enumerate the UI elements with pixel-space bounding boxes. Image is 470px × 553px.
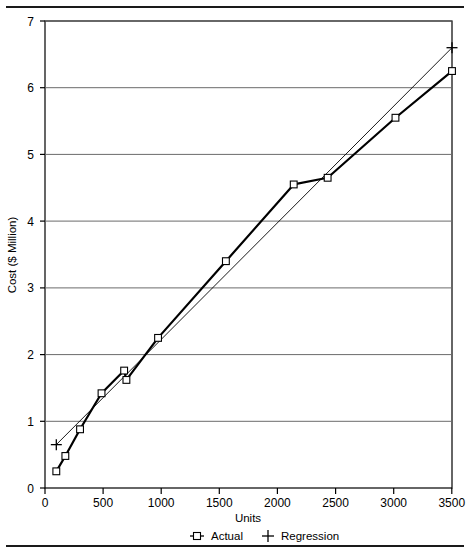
x-tick-label: 3500	[438, 496, 465, 510]
x-tick-label: 500	[93, 496, 113, 510]
y-tick-label: 2	[27, 348, 34, 362]
data-point-marker-square	[98, 390, 105, 397]
data-point-marker-square	[62, 453, 69, 460]
plot-frame	[45, 21, 452, 488]
y-tick-label: 3	[27, 281, 34, 295]
data-point-marker-square	[324, 174, 331, 181]
x-axis-title: Units	[235, 512, 261, 524]
data-point-marker-square	[121, 367, 128, 374]
x-tick-label: 1500	[206, 496, 233, 510]
data-point-marker-square	[290, 181, 297, 188]
data-point-marker-square	[53, 468, 60, 475]
x-axis-tick-labels: 0 500 1000 1500 2000 2500 3000 3500	[42, 496, 466, 510]
y-tick-label: 5	[27, 148, 34, 162]
y-axis-title: Cost ($ Million)	[6, 216, 18, 293]
legend-plus-marker-icon	[262, 530, 274, 542]
y-tick-label: 6	[27, 81, 34, 95]
data-point-marker-square	[77, 426, 84, 433]
y-tick-label: 7	[27, 15, 34, 29]
data-point-marker-square	[123, 377, 130, 384]
y-tick-label: 1	[27, 415, 34, 429]
legend-item-regression: Regression	[262, 530, 339, 542]
y-tick-label: 0	[27, 482, 34, 496]
x-tick-label: 1000	[148, 496, 175, 510]
legend-label-regression: Regression	[281, 530, 339, 542]
x-tick-label: 2000	[264, 496, 291, 510]
chart-legend: Actual Regression	[190, 530, 339, 542]
legend-label-actual: Actual	[211, 530, 243, 542]
data-point-marker-square	[449, 68, 456, 75]
y-axis-ticks	[40, 21, 45, 488]
legend-square-marker-icon	[194, 533, 201, 540]
legend-item-actual: Actual	[190, 530, 243, 542]
data-point-marker-square	[155, 334, 162, 341]
chart-canvas: 7 6 5 4 3 2 1 0 0 500 1000 1500 2000	[0, 0, 470, 553]
x-tick-label: 3000	[380, 496, 407, 510]
x-tick-label: 0	[42, 496, 49, 510]
x-tick-label: 2500	[322, 496, 349, 510]
y-tick-label: 4	[27, 215, 34, 229]
chart-figure: 7 6 5 4 3 2 1 0 0 500 1000 1500 2000	[0, 0, 470, 553]
x-axis-ticks	[45, 488, 452, 494]
y-axis-tick-labels: 7 6 5 4 3 2 1 0	[27, 15, 34, 496]
data-point-marker-square	[222, 258, 229, 265]
data-point-marker-square	[392, 114, 399, 121]
